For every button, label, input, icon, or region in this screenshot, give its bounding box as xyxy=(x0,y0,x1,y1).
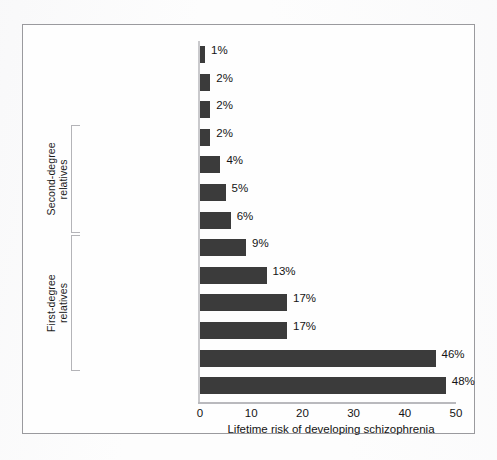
bar xyxy=(200,184,226,201)
bar-value-label: 9% xyxy=(252,237,269,249)
bar xyxy=(200,350,436,367)
chart-frame: Second-degree relativesFirst-degree rela… xyxy=(22,24,475,434)
bar-value-label: 2% xyxy=(216,127,233,139)
x-tick-label: 20 xyxy=(296,407,309,419)
group-label: Second-degree relatives xyxy=(45,125,69,233)
x-axis-ticks: 01020304050 xyxy=(198,407,497,423)
bar xyxy=(200,322,287,339)
bar xyxy=(200,212,231,229)
bar xyxy=(200,46,205,63)
bar-value-label: 17% xyxy=(293,320,316,332)
bar-value-label: 2% xyxy=(216,72,233,84)
bar-value-label: 48% xyxy=(452,375,475,387)
bar xyxy=(200,101,210,118)
bar-value-label: 2% xyxy=(216,99,233,111)
bar xyxy=(200,74,210,91)
bar-value-label: 46% xyxy=(442,348,465,360)
x-tick-label: 0 xyxy=(197,407,203,419)
bar xyxy=(200,239,246,256)
bar xyxy=(200,129,210,146)
bar xyxy=(200,267,267,284)
plot-area: 1%General population2%Spouses of patient… xyxy=(198,41,454,402)
x-tick-label: 40 xyxy=(398,407,411,419)
bar-value-label: 1% xyxy=(211,44,228,56)
x-axis-title: Lifetime risk of developing schizophreni… xyxy=(198,423,464,435)
bar-value-label: 5% xyxy=(232,182,249,194)
bar xyxy=(200,156,220,173)
figure-page: Second-degree relativesFirst-degree rela… xyxy=(0,0,497,460)
bar xyxy=(200,377,446,394)
x-axis-line xyxy=(198,402,456,404)
bar-value-label: 13% xyxy=(273,265,296,277)
group-bracket xyxy=(71,235,80,371)
bar-value-label: 4% xyxy=(226,154,243,166)
bar-value-label: 6% xyxy=(237,210,254,222)
bar-value-label: 17% xyxy=(293,292,316,304)
group-bracket xyxy=(71,125,80,233)
bar xyxy=(200,294,287,311)
x-tick-label: 10 xyxy=(245,407,258,419)
group-label: First-degree relatives xyxy=(45,235,69,371)
x-tick-label: 30 xyxy=(347,407,360,419)
x-tick-label: 50 xyxy=(450,407,463,419)
